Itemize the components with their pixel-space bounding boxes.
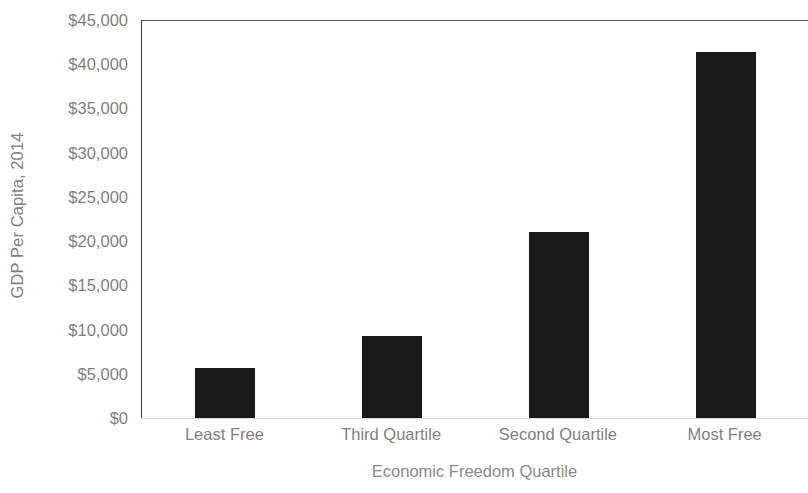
y-axis-tick-label: $20,000 — [36, 232, 128, 251]
y-axis-tick-label: $10,000 — [36, 320, 128, 339]
y-axis-tick-label: $0 — [36, 409, 128, 428]
x-axis-tick-labels: Least FreeThird QuartileSecond QuartileM… — [141, 425, 808, 455]
bar — [529, 232, 589, 418]
x-axis-baseline — [141, 418, 808, 419]
y-axis-tick-label: $35,000 — [36, 99, 128, 118]
bar — [696, 52, 756, 418]
plot-area — [141, 20, 808, 418]
x-axis-title: Economic Freedom Quartile — [141, 462, 808, 481]
y-axis-title-text: GDP Per Capita, 2014 — [9, 132, 28, 298]
y-axis-tick-label: $40,000 — [36, 55, 128, 74]
y-axis-tick-label: $30,000 — [36, 143, 128, 162]
x-axis-tick-label: Least Free — [185, 425, 264, 444]
y-axis-tick-labels: $0$5,000$10,000$15,000$20,000$25,000$30,… — [36, 0, 134, 493]
bar-chart-figure: GDP Per Capita, 2014 $0$5,000$10,000$15,… — [0, 0, 808, 493]
y-axis-title: GDP Per Capita, 2014 — [0, 0, 36, 430]
y-axis-tick-label: $25,000 — [36, 187, 128, 206]
y-axis-tick-label: $15,000 — [36, 276, 128, 295]
x-axis-tick-label: Third Quartile — [341, 425, 441, 444]
bar — [195, 368, 255, 418]
y-axis-tick-label: $5,000 — [36, 364, 128, 383]
x-axis-tick-label: Most Free — [687, 425, 761, 444]
bar — [362, 336, 422, 418]
x-axis-tick-label: Second Quartile — [499, 425, 617, 444]
y-axis-tick-label: $45,000 — [36, 11, 128, 30]
